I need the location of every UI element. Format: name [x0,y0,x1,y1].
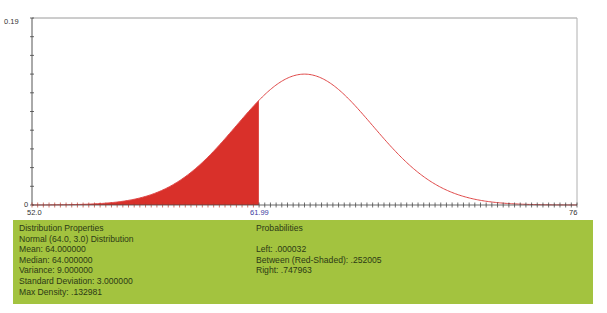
x-axis-marker-label: 61.99 [250,208,269,217]
y-axis-top-label: 0.19 [4,17,19,26]
x-axis-left-label: 52.0 [27,208,42,217]
distribution-name: Normal (64.0, 3.0) Distribution [19,234,134,245]
right-probability: Right: .747963 [256,265,382,276]
probabilities: Probabilities Left: .000032 Between (Red… [256,223,382,276]
probabilities-heading: Probabilities [256,223,382,234]
x-axis-right-label: 76 [569,208,577,217]
median-value: Median: 64.000000 [19,255,134,266]
spacer [256,234,382,245]
distribution-properties: Distribution Properties Normal (64.0, 3.… [19,223,134,297]
mean-value: Mean: 64.000000 [19,244,134,255]
max-density-value: Max Density: .132981 [19,287,134,298]
info-panel: Distribution Properties Normal (64.0, 3.… [13,220,593,304]
plot-frame [32,18,577,205]
distribution-chart: 0.19 0 52.0 61.99 76 [0,0,607,218]
properties-heading: Distribution Properties [19,223,134,234]
density-curve [32,74,577,205]
left-probability: Left: .000032 [256,244,382,255]
between-probability: Between (Red-Shaded): .252005 [256,255,382,266]
shaded-region [32,100,259,205]
std-dev-value: Standard Deviation: 3.000000 [19,276,134,287]
variance-value: Variance: 9.000000 [19,265,134,276]
